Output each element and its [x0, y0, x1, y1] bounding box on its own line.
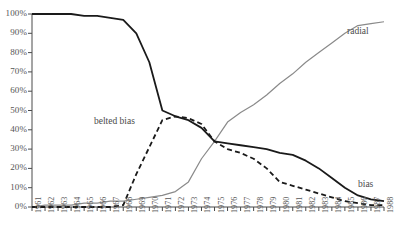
x-axis-tick-label: 1979 — [270, 197, 278, 213]
x-axis-tick-label: 1986 — [361, 197, 369, 213]
x-axis-tick-label: 1962 — [48, 197, 56, 213]
x-axis-tick-label: 1972 — [178, 197, 186, 213]
x-axis-tick-label: 1980 — [283, 197, 291, 213]
x-axis-tick-label: 1970 — [152, 197, 160, 213]
y-axis-tick-label: 0% — [0, 202, 27, 211]
x-axis-tick-label: 1983 — [322, 197, 330, 213]
x-axis-tick-label: 1971 — [165, 197, 173, 213]
x-axis-tick-label: 1984 — [335, 197, 343, 213]
y-axis-tick-label: 10% — [0, 183, 27, 192]
y-axis-tick-label: 20% — [0, 163, 27, 172]
x-axis-tick-label: 1974 — [204, 197, 212, 213]
series-line-radial — [32, 22, 384, 207]
x-axis-tick-label: 1975 — [218, 197, 226, 213]
x-axis-tick-label: 1964 — [74, 197, 82, 213]
x-axis-tick-label: 1968 — [126, 197, 134, 213]
y-axis-tick-label: 40% — [0, 125, 27, 134]
x-axis-tick-label: 1961 — [35, 197, 43, 213]
y-axis-tick-label: 60% — [0, 86, 27, 95]
x-axis-tick-label: 1966 — [100, 197, 108, 213]
y-axis-tick-label: 80% — [0, 48, 27, 57]
series-label-bias: bias — [358, 180, 373, 190]
x-axis-tick-label: 1987 — [374, 197, 382, 213]
x-axis-tick-label: 1988 — [387, 197, 395, 213]
series-label-radial: radial — [347, 27, 369, 37]
series-line-bias — [32, 14, 384, 201]
x-axis-tick-label: 1978 — [257, 197, 265, 213]
y-axis-tick-label: 100% — [0, 9, 27, 18]
x-axis-tick-label: 1976 — [231, 197, 239, 213]
x-axis-tick-label: 1963 — [61, 197, 69, 213]
x-axis-tick-label: 1982 — [309, 197, 317, 213]
y-axis-tick-label: 70% — [0, 67, 27, 76]
x-axis-tick-label: 1973 — [191, 197, 199, 213]
x-axis-tick-label: 1985 — [348, 197, 356, 213]
y-axis-tick-label: 30% — [0, 144, 27, 153]
x-axis-tick-label: 1965 — [87, 197, 95, 213]
y-axis-ticks — [28, 14, 32, 207]
x-axis-tick-label: 1969 — [139, 197, 147, 213]
y-axis-tick-label: 90% — [0, 28, 27, 37]
x-axis-tick-label: 1977 — [244, 197, 252, 213]
x-axis-tick-label: 1981 — [296, 197, 304, 213]
series-line-belted-bias — [32, 116, 384, 207]
series-label-belted-bias: belted bias — [94, 117, 135, 127]
series-group — [32, 14, 384, 207]
x-axis-tick-label: 1967 — [113, 197, 121, 213]
y-axis-tick-label: 50% — [0, 106, 27, 115]
